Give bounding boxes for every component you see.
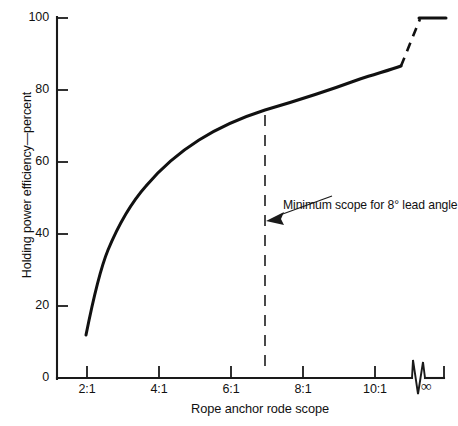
annotation-arrowhead: [266, 212, 284, 225]
annotation-minimum-scope: Minimum scope for 8° lead angle: [283, 198, 458, 212]
x-tick-label-10to1: 10:1: [355, 382, 395, 396]
x-tick-label-6to1: 6:1: [211, 382, 251, 396]
y-axis-title: Holding power efficiency—percent: [20, 85, 34, 285]
x-axis-ticks: [87, 366, 444, 378]
x-tick-label-8to1: 8:1: [283, 382, 323, 396]
y-tick-label-0: 0: [19, 370, 49, 384]
y-axis-ticks: [57, 18, 68, 378]
efficiency-curve-extrapolated: [401, 19, 420, 66]
plot-area: [0, 0, 458, 426]
x-axis-title: Rope anchor rode scope: [100, 401, 420, 416]
chart-figure: 100 80 60 40 20 0 2:1 4:1 6:1 8:1 10:1 ∞…: [0, 0, 458, 426]
y-tick-label-20: 20: [19, 298, 49, 312]
x-tick-label-4to1: 4:1: [139, 382, 179, 396]
y-tick-label-100: 100: [19, 10, 49, 24]
x-tick-label-infinity: ∞: [421, 378, 432, 395]
x-tick-label-2to1: 2:1: [67, 382, 107, 396]
